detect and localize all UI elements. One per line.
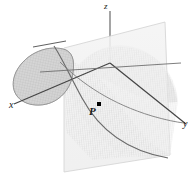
point-p-label: P: [89, 106, 96, 117]
surface-plot-canvas: [0, 0, 194, 180]
x-axis-label: x: [9, 100, 13, 110]
point-p-marker: [97, 102, 101, 106]
surface-plot-figure: x y z P: [0, 0, 194, 180]
y-axis-label: y: [183, 119, 187, 129]
z-axis-label: z: [104, 2, 108, 11]
